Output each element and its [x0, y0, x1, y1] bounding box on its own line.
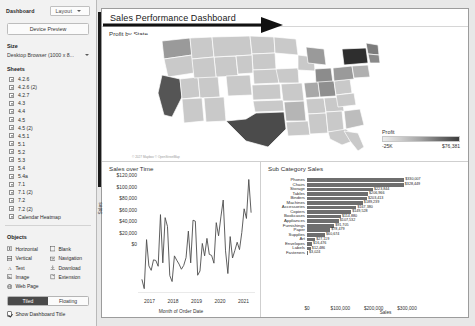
sheet-item-label: 5.3	[18, 157, 25, 163]
show-dashboard-title-checkbox[interactable]	[7, 311, 12, 316]
object-item[interactable]: Download	[50, 263, 91, 271]
legend-gradient-bar	[382, 136, 460, 142]
object-item-label: Navigation	[58, 255, 82, 261]
tiled-floating-toggle[interactable]: Tiled Floating	[7, 296, 89, 307]
object-item[interactable]: Image	[7, 273, 48, 281]
navigation-icon	[50, 256, 55, 261]
object-item[interactable]: Navigation	[50, 254, 91, 262]
sheet-item-label: 4.2.6	[18, 76, 29, 82]
sheet-item-label: 4.2.6 (2)	[18, 84, 37, 90]
sheet-item[interactable]: 7.1	[0, 180, 96, 188]
bar-chart-title: Sub Category Sales	[261, 162, 468, 172]
y-tick-label: $100,000	[117, 186, 137, 191]
legend-ticks: -25K $76,381	[382, 143, 460, 149]
bar-category-label: Fasteners	[286, 251, 305, 255]
dashboard-title[interactable]: Sales Performance Dashboard	[102, 9, 468, 27]
sheet-item[interactable]: 5.4a	[0, 172, 96, 180]
object-item[interactable]: Web Page	[7, 282, 48, 290]
tiled-button[interactable]: Tiled	[8, 297, 48, 306]
sidebar-divider	[5, 225, 91, 226]
horizontal-layout-icon	[7, 246, 12, 251]
annotation-vertical-bar	[98, 12, 101, 187]
us-choropleth-map[interactable]	[128, 35, 380, 153]
chevron-down-icon	[85, 54, 89, 56]
text-icon: A	[7, 265, 12, 270]
bar-value-label: $3,024	[309, 251, 320, 255]
y-tick-label: $20,000	[119, 232, 137, 237]
sheet-item-label: 5.4	[18, 165, 25, 171]
x-tick-label: 2020	[215, 299, 226, 304]
line-chart-y-label: Sales	[98, 202, 103, 214]
tab-layout[interactable]: Layout	[50, 6, 90, 16]
sheet-item[interactable]: 7.1 (2)	[0, 188, 96, 196]
object-item[interactable]: Horizontal	[7, 245, 48, 253]
sheet-item-label: 5.2	[18, 149, 25, 155]
sheet-item[interactable]: 4.2.6 (2)	[0, 83, 96, 91]
device-preview-button[interactable]: Device Preview	[7, 23, 89, 35]
sheet-item[interactable]: 7.2 (2)	[0, 205, 96, 213]
object-item[interactable]: Blank	[50, 245, 91, 253]
bar-rect	[307, 178, 404, 182]
sheet-item[interactable]: 4.5 (2)	[0, 124, 96, 132]
bar-chart-row[interactable]: Fasteners$3,024	[307, 251, 464, 256]
tableau-dashboard-window: Dashboard Layout Device Preview Size Des…	[0, 0, 475, 326]
legend-title: Profit	[382, 129, 462, 135]
x-tick-label: 2019	[191, 299, 202, 304]
sheet-icon	[9, 206, 14, 211]
sheet-icon	[9, 125, 14, 130]
x-tick-label: 2021	[238, 299, 249, 304]
object-item-label: Image	[15, 274, 29, 280]
y-tick-label: $40,000	[119, 220, 137, 225]
object-item-label: Web Page	[15, 283, 38, 289]
object-item-label: Horizontal	[15, 246, 38, 252]
sheet-item-label: 7.1 (2)	[18, 189, 33, 195]
sheet-item[interactable]: 4.5.1	[0, 132, 96, 140]
object-item[interactable]: Extension	[50, 273, 91, 281]
sheet-icon	[9, 133, 14, 138]
line-chart-plot[interactable]	[138, 178, 255, 293]
vertical-layout-icon	[7, 256, 12, 261]
sheet-item[interactable]: 4.2.7	[0, 91, 96, 99]
object-item[interactable]: AText	[7, 263, 48, 271]
sheet-item[interactable]: 5.2	[0, 148, 96, 156]
tab-dashboard[interactable]: Dashboard	[6, 8, 35, 14]
object-item[interactable]: Vertical	[7, 254, 48, 262]
sub-category-sales-panel: Sub Category Sales Phones$330,007Chairs$…	[261, 162, 468, 317]
size-heading: Size	[7, 43, 96, 49]
sheet-item[interactable]: 5.4	[0, 164, 96, 172]
line-chart-x-label: Month of Order Date	[102, 309, 260, 314]
dashboard-canvas: Sales Performance Dashboard Profit by St…	[101, 8, 469, 318]
bar-chart-bars[interactable]: Phones$330,007Chairs$328,449Storage$223,…	[307, 178, 464, 295]
objects-grid: HorizontalBlankVerticalNavigationATextDo…	[0, 243, 96, 291]
svg-text:A: A	[8, 265, 12, 270]
show-dashboard-title-row[interactable]: Show Dashboard Title	[7, 311, 96, 317]
sheet-item[interactable]: 7.2	[0, 196, 96, 204]
size-dropdown[interactable]: Desktop Browser (1000 x 8...	[7, 52, 89, 58]
sheet-item-label: 7.2 (2)	[18, 206, 33, 212]
bar-rect	[307, 251, 308, 255]
sheet-item[interactable]: 5.1	[0, 140, 96, 148]
legend-max: $76,381	[442, 143, 460, 149]
sheet-item[interactable]: 4.4	[0, 107, 96, 115]
sheet-item[interactable]: 4.2.6	[0, 75, 96, 83]
sheet-item[interactable]: Calendar Heatmap	[0, 213, 96, 221]
y-tick-label: $120,000	[117, 174, 137, 179]
sheet-item-label: 4.5 (2)	[18, 125, 33, 131]
bar-rect	[307, 192, 368, 196]
object-item-label: Extension	[58, 274, 80, 280]
y-tick-label: $80,000	[119, 197, 137, 202]
sheet-icon	[9, 141, 14, 146]
sheet-icon	[9, 190, 14, 195]
sheet-item[interactable]: 4.3	[0, 99, 96, 107]
dashboard-sidebar: Dashboard Layout Device Preview Size Des…	[0, 0, 97, 326]
sheet-item[interactable]: 5.3	[0, 156, 96, 164]
sheet-icon	[9, 77, 14, 82]
floating-button[interactable]: Floating	[48, 297, 88, 306]
sheet-icon	[9, 214, 14, 219]
extension-icon	[50, 274, 55, 279]
sheet-item-label: 4.2.7	[18, 92, 29, 98]
sheet-item[interactable]: 4.5	[0, 115, 96, 123]
sheet-item-label: Calendar Heatmap	[18, 214, 61, 220]
sheet-icon	[9, 166, 14, 171]
bar-chart-x-label: Sales	[307, 310, 464, 315]
